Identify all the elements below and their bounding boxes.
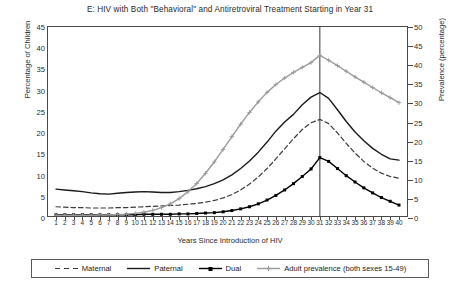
x-axis-tick-label: 1 (54, 219, 58, 226)
solid-marker-line-swatch (198, 264, 223, 273)
x-axis-tick-label: 23 (246, 219, 253, 226)
series-marker (318, 156, 321, 159)
y-axis-left-tick-labels: 051015202530354045 (24, 26, 45, 217)
series-marker (204, 212, 207, 215)
x-axis-tick-label: 40 (395, 219, 402, 226)
gray-marker-line-swatch (256, 264, 281, 273)
x-axis-tick-label: 30 (307, 219, 314, 226)
x-axis-tick-label: 9 (125, 219, 129, 226)
y-axis-right-tick-label: 15 (414, 156, 422, 165)
y-axis-right-tick-label: 10 (414, 175, 422, 184)
y-axis-right-tick (408, 27, 413, 28)
x-axis-tick-label: 18 (202, 219, 209, 226)
x-axis-tick-label: 38 (378, 219, 385, 226)
chart-container: E: HIV with Both "Behavioral" and Antire… (0, 0, 460, 287)
series-marker (398, 204, 401, 207)
series-marker (186, 212, 189, 215)
x-axis-tick-label: 19 (211, 219, 218, 226)
x-axis-tick-label: 37 (369, 219, 376, 226)
series-marker (222, 210, 225, 213)
series-marker (336, 167, 339, 170)
x-axis-tick-label: 31 (316, 219, 323, 226)
series-marker (371, 191, 374, 194)
series-marker (266, 199, 269, 202)
x-axis-tick-label: 17 (193, 219, 200, 226)
x-axis-tick-label: 5 (89, 219, 93, 226)
x-axis-tick-label: 15 (176, 219, 183, 226)
series-marker (213, 211, 216, 214)
x-axis-tick-label: 29 (299, 219, 306, 226)
x-axis-tick-label: 35 (351, 219, 358, 226)
legend-item-label: Adult prevalence (both sexes 15-49) (284, 264, 406, 273)
y-axis-left-tick-label: 10 (37, 171, 45, 180)
x-axis-tick-label: 10 (132, 219, 139, 226)
x-axis-tick-label: 25 (264, 219, 271, 226)
plot-area (47, 26, 408, 217)
x-axis-tick-label: 24 (255, 219, 262, 226)
series-marker (389, 200, 392, 203)
legend-marker (208, 267, 212, 271)
chart-title: E: HIV with Both "Behavioral" and Antire… (0, 5, 460, 14)
dashed-line-swatch (54, 264, 79, 273)
legend-item-label: Dual (226, 264, 242, 273)
y-axis-right-tick-label: 5 (414, 194, 418, 203)
y-axis-left-tick-label: 40 (37, 44, 45, 53)
x-axis-tick-label: 11 (141, 219, 148, 226)
legend-item[interactable]: Dual (198, 264, 242, 273)
x-axis-tick-label: 39 (387, 219, 394, 226)
y-axis-right-tick-label: 0 (414, 214, 418, 223)
x-axis-tick-label: 32 (325, 219, 332, 226)
series-marker (195, 212, 198, 215)
series-marker (248, 205, 251, 208)
series-marker (283, 188, 286, 191)
y-axis-right-tick (408, 161, 413, 162)
y-axis-right-tick-label: 35 (414, 80, 422, 89)
x-axis-tick-label: 20 (220, 219, 227, 226)
y-axis-right-tick (408, 84, 413, 85)
x-axis-tick-label: 27 (281, 219, 288, 226)
x-axis-tick-label: 36 (360, 219, 367, 226)
y-axis-right-tick-label: 45 (414, 42, 422, 51)
series-marker (169, 213, 172, 216)
y-axis-left-tick-label: 5 (41, 192, 45, 201)
y-axis-right-tick (408, 123, 413, 124)
x-axis-tick-label: 7 (107, 219, 111, 226)
y-axis-right-ticks (408, 26, 413, 217)
y-axis-right-tick-label: 20 (414, 137, 422, 146)
legend-item[interactable]: Adult prevalence (both sexes 15-49) (256, 264, 406, 273)
y-axis-right-tick (408, 65, 413, 66)
y-axis-right-tick-label: 40 (414, 61, 422, 70)
y-axis-left-tick-label: 25 (37, 107, 45, 116)
series-marker (292, 182, 295, 185)
x-axis-tick-label: 2 (63, 219, 67, 226)
x-axis-tick-label: 12 (149, 219, 156, 226)
x-axis-tick-labels: 1234567891011121314151617181920212223242… (47, 219, 408, 231)
y-axis-right-tick (408, 199, 413, 200)
series-marker (178, 212, 181, 215)
x-axis-tick-label: 4 (81, 219, 85, 226)
series-line-adult (56, 55, 399, 215)
plot-svg (48, 27, 407, 216)
y-axis-left-tick-label: 30 (37, 86, 45, 95)
y-axis-right-tick-label: 25 (414, 118, 422, 127)
legend-item[interactable]: Maternal (54, 264, 112, 273)
legend-item[interactable]: Paternal (126, 264, 182, 273)
y-axis-left-tick-label: 15 (37, 150, 45, 159)
x-axis-tick-label: 22 (237, 219, 244, 226)
x-axis-tick-label: 16 (184, 219, 191, 226)
y-axis-right-tick (408, 103, 413, 104)
series-marker (380, 196, 383, 199)
series-marker (274, 194, 277, 197)
y-axis-left-tick-label: 35 (37, 65, 45, 74)
chart-legend: MaternalPaternalDualAdult prevalence (bo… (31, 259, 429, 278)
x-axis-title: Years Since Introduction of HIV (0, 236, 460, 245)
x-axis-tick-label: 6 (98, 219, 102, 226)
y-axis-right-tick-label: 30 (414, 99, 422, 108)
series-marker (362, 186, 365, 189)
x-axis-tick-label: 3 (72, 219, 76, 226)
x-axis-tick-label: 8 (116, 219, 120, 226)
x-axis-tick-label: 33 (334, 219, 341, 226)
y-axis-right-tick (408, 180, 413, 181)
series-marker (239, 207, 242, 210)
x-axis-tick-label: 14 (167, 219, 174, 226)
